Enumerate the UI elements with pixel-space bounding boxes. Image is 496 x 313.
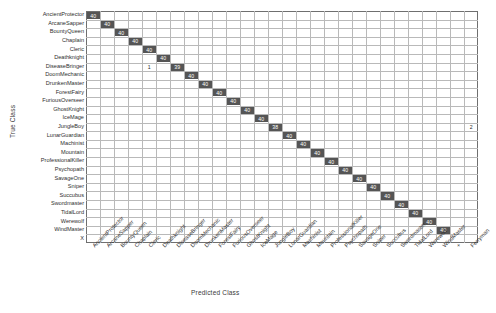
y-tick-label: WindMaster bbox=[54, 227, 84, 233]
matrix-cell: 40 bbox=[157, 55, 170, 62]
matrix-cell: 40 bbox=[115, 29, 128, 36]
grid-line-horizontal bbox=[86, 183, 478, 184]
y-tick-label: X bbox=[80, 236, 84, 242]
matrix-cell: 40 bbox=[381, 192, 394, 199]
grid-line-horizontal bbox=[86, 166, 478, 167]
matrix-cell: 40 bbox=[87, 12, 100, 19]
matrix-cell: 40 bbox=[213, 89, 226, 96]
matrix-grid: 4040404040401394040404040403824040404040… bbox=[86, 11, 478, 243]
grid-line-horizontal bbox=[86, 200, 478, 201]
y-tick-label: SavageOne bbox=[54, 176, 84, 182]
matrix-cell: 40 bbox=[241, 107, 254, 114]
grid-line-horizontal bbox=[86, 191, 478, 192]
y-axis-tick-labels: AncientProtectorArcaneSapperBountyQueenC… bbox=[0, 11, 84, 243]
confusion-matrix-plot: True Class Predicted Class AncientProtec… bbox=[0, 0, 496, 313]
y-tick-label: Chaplain bbox=[62, 38, 84, 44]
y-tick-label: DrunkenMaster bbox=[46, 81, 84, 87]
grid-line-horizontal bbox=[86, 80, 478, 81]
matrix-cell: 40 bbox=[395, 201, 408, 208]
grid-line-horizontal bbox=[86, 37, 478, 38]
y-tick-label: BountyQueen bbox=[50, 29, 84, 35]
matrix-cell: 1 bbox=[143, 64, 156, 71]
grid-line-horizontal bbox=[86, 114, 478, 115]
matrix-cell: 40 bbox=[227, 98, 240, 105]
y-tick-label: ArcaneSapper bbox=[48, 21, 84, 27]
grid-line-horizontal bbox=[86, 174, 478, 175]
y-tick-label: Sniper bbox=[68, 184, 84, 190]
matrix-cell: 38 bbox=[269, 124, 282, 131]
matrix-cell: 40 bbox=[283, 132, 296, 139]
grid-line-horizontal bbox=[86, 97, 478, 98]
y-tick-label: Cleric bbox=[70, 47, 84, 53]
y-tick-label: Machinist bbox=[60, 141, 84, 147]
matrix-cell: 40 bbox=[255, 115, 268, 122]
y-tick-label: Swordmaster bbox=[51, 201, 84, 207]
matrix-cell: 40 bbox=[311, 149, 324, 156]
y-tick-label: Deathknight bbox=[54, 55, 84, 61]
grid-line-horizontal bbox=[86, 140, 478, 141]
y-tick-label: AncientProtector bbox=[43, 12, 84, 18]
matrix-cell: 40 bbox=[199, 81, 212, 88]
matrix-cell: 39 bbox=[171, 64, 184, 71]
matrix-cell: 40 bbox=[185, 72, 198, 79]
grid-line-horizontal bbox=[86, 217, 478, 218]
grid-line-horizontal bbox=[86, 54, 478, 55]
matrix-cell: 40 bbox=[339, 167, 352, 174]
y-tick-label: ForestFairy bbox=[56, 90, 84, 96]
y-tick-label: DiseaseBringer bbox=[46, 64, 84, 70]
y-tick-label: Mountain bbox=[61, 150, 84, 156]
grid-line-horizontal bbox=[86, 157, 478, 158]
matrix-cell: 40 bbox=[367, 184, 380, 191]
matrix-cell: 40 bbox=[353, 175, 366, 182]
y-tick-label: GhostKnight bbox=[53, 107, 84, 113]
grid-line-horizontal bbox=[86, 106, 478, 107]
matrix-cell: 40 bbox=[129, 38, 142, 45]
y-tick-label: LunarGuardian bbox=[47, 133, 84, 139]
y-tick-label: DoomMechanic bbox=[45, 72, 84, 78]
matrix-cell: 2 bbox=[465, 124, 478, 131]
grid-line-horizontal bbox=[86, 123, 478, 124]
y-tick-label: IceMage bbox=[63, 115, 84, 121]
grid-line-horizontal bbox=[86, 71, 478, 72]
x-tick-label: + bbox=[456, 243, 462, 249]
x-axis-tick-labels: AncientProtectorArcaneSapperBountyQueenC… bbox=[86, 245, 486, 307]
y-tick-label: Werewolf bbox=[61, 219, 84, 225]
y-tick-label: JungleBoy bbox=[58, 124, 84, 130]
grid-line-horizontal bbox=[86, 20, 478, 21]
matrix-cell: 40 bbox=[409, 210, 422, 217]
matrix-cell: 40 bbox=[143, 46, 156, 53]
matrix-cell: 40 bbox=[325, 158, 338, 165]
y-tick-label: ProfessionalKiller bbox=[41, 158, 84, 164]
y-tick-label: Psychopath bbox=[55, 167, 84, 173]
y-tick-label: FuriousOverseer bbox=[42, 98, 84, 104]
matrix-cell: 40 bbox=[101, 21, 114, 28]
grid-line-horizontal bbox=[86, 88, 478, 89]
grid-line-horizontal bbox=[86, 131, 478, 132]
matrix-cell: 40 bbox=[297, 141, 310, 148]
grid-line-horizontal bbox=[86, 148, 478, 149]
grid-line-horizontal bbox=[86, 28, 478, 29]
y-tick-label: TidalLord bbox=[61, 210, 84, 216]
y-tick-label: Succubus bbox=[59, 193, 84, 199]
